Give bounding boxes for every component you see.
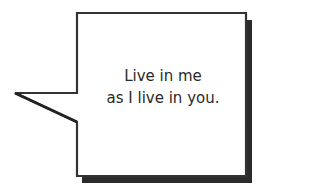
bubble-line-2: as I live in you. (80, 87, 246, 109)
bubble-text: Live in me as I live in you. (80, 65, 246, 109)
bubble-line-1: Live in me (80, 65, 246, 87)
